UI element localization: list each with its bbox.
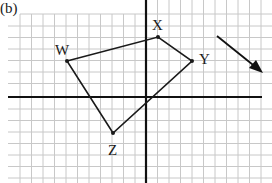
quadrilateral-wxyz	[67, 37, 192, 133]
label-y: Y	[199, 51, 210, 67]
coordinate-grid-diagram: (b) W X Y Z	[0, 0, 272, 183]
point-w	[65, 59, 69, 63]
label-w: W	[55, 42, 70, 58]
point-z	[111, 131, 115, 135]
direction-arrow	[217, 36, 263, 73]
grid-lines	[8, 0, 272, 183]
figure-label: (b)	[0, 0, 18, 17]
point-x	[156, 35, 160, 39]
label-z: Z	[108, 142, 117, 158]
point-y	[190, 59, 194, 63]
label-x: X	[152, 17, 163, 33]
